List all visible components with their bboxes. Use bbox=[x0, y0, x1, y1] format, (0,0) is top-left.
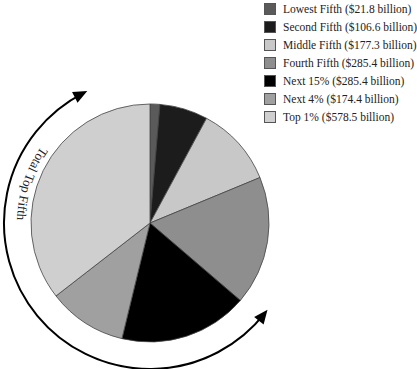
legend-swatch bbox=[264, 39, 276, 51]
legend-swatch bbox=[264, 3, 276, 15]
legend-item: Top 1% ($578.5 billion) bbox=[264, 108, 417, 126]
legend-label: Next 4% ($174.4 billion) bbox=[283, 93, 399, 105]
legend-label: Fourth Fifth ($285.4 billion) bbox=[283, 57, 414, 69]
legend-item: Second Fifth ($106.6 billion) bbox=[264, 18, 417, 36]
legend-label: Top 1% ($578.5 billion) bbox=[283, 111, 394, 123]
legend-swatch bbox=[264, 75, 276, 87]
pie-slices bbox=[31, 104, 269, 342]
legend-swatch bbox=[264, 93, 276, 105]
legend-item: Lowest Fifth ($21.8 billion) bbox=[264, 0, 417, 18]
legend-label: Middle Fifth ($177.3 billion) bbox=[283, 39, 417, 51]
legend-label: Second Fifth ($106.6 billion) bbox=[283, 21, 417, 33]
legend-swatch bbox=[264, 111, 276, 123]
legend-swatch bbox=[264, 57, 276, 69]
legend-swatch bbox=[264, 21, 276, 33]
legend-item: Next 4% ($174.4 billion) bbox=[264, 90, 417, 108]
legend-item: Middle Fifth ($177.3 billion) bbox=[264, 36, 417, 54]
legend-item: Fourth Fifth ($285.4 billion) bbox=[264, 54, 417, 72]
legend-label: Next 15% ($285.4 billion) bbox=[283, 75, 404, 87]
legend-item: Next 15% ($285.4 billion) bbox=[264, 72, 417, 90]
legend: Lowest Fifth ($21.8 billion)Second Fifth… bbox=[264, 0, 417, 126]
legend-label: Lowest Fifth ($21.8 billion) bbox=[283, 3, 411, 15]
